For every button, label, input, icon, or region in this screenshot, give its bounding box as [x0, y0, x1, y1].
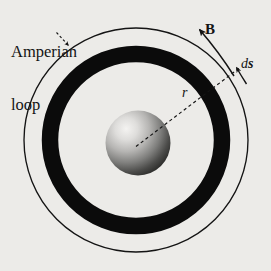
amperian-loop-figure: Amperian loop B ds r — [0, 0, 271, 271]
inner-sphere — [106, 111, 171, 176]
ds-label: ds — [241, 56, 253, 71]
ds-label-s: s — [248, 56, 253, 71]
radius-label: r — [182, 85, 187, 100]
amperian-loop-label-line2: loop — [11, 96, 77, 114]
ds-label-d: d — [241, 56, 248, 71]
amperian-loop-label-line1: Amperian — [11, 43, 77, 61]
amperian-loop-label: Amperian loop — [11, 7, 77, 150]
b-field-label: B — [205, 21, 215, 37]
